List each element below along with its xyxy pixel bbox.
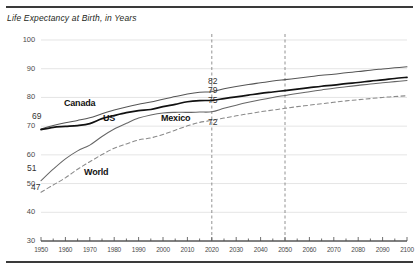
- x-tick-label-2090: 2090: [370, 246, 396, 253]
- x-tick-label-1990: 1990: [126, 246, 152, 253]
- x-tick-label-2070: 2070: [321, 246, 347, 253]
- canada-start-value: 69: [32, 111, 41, 121]
- x-tick-label-1950: 1950: [28, 246, 54, 253]
- world-start-value: 47: [31, 182, 40, 192]
- series-label-us: US: [103, 113, 115, 123]
- y-tick-label-70: 70: [13, 121, 35, 130]
- y-tick-label-60: 60: [13, 150, 35, 159]
- x-axis-group: [41, 237, 407, 241]
- series-label-mexico: Mexico: [161, 113, 190, 123]
- y-tick-label-30: 30: [13, 236, 35, 245]
- y-tick-label-40: 40: [13, 207, 35, 216]
- series-label-world: World: [84, 167, 108, 177]
- chart-figure: Life Expectancy at Birth, in Years 30405…: [0, 0, 419, 270]
- x-tick-label-2030: 2030: [223, 246, 249, 253]
- x-tick-label-1980: 1980: [101, 246, 127, 253]
- us-2020-value: 79: [208, 85, 217, 95]
- x-tick-label-2010: 2010: [174, 246, 200, 253]
- mexico-start-value: 51: [27, 163, 36, 173]
- x-tick-label-2080: 2080: [345, 246, 371, 253]
- x-tick-label-1970: 1970: [77, 246, 103, 253]
- reference-lines-group: [212, 34, 285, 241]
- y-tick-label-90: 90: [13, 64, 35, 73]
- x-tick-label-2050: 2050: [272, 246, 298, 253]
- x-tick-label-2020: 2020: [199, 246, 225, 253]
- series-label-canada: Canada: [64, 98, 95, 108]
- x-tick-label-2100: 2100: [394, 246, 419, 253]
- x-tick-label-2060: 2060: [296, 246, 322, 253]
- mexico-2020-value: 75: [208, 95, 217, 105]
- y-tick-label-100: 100: [13, 35, 35, 44]
- x-tick-label-1960: 1960: [52, 246, 78, 253]
- x-tick-label-2000: 2000: [150, 246, 176, 253]
- series-line-us: [41, 77, 407, 129]
- y-tick-label-80: 80: [13, 92, 35, 101]
- x-tick-label-2040: 2040: [248, 246, 274, 253]
- series-line-mexico: [41, 80, 407, 180]
- world-2020-value: 72: [208, 117, 217, 127]
- chart-plot-area: [0, 0, 419, 270]
- series-line-world: [41, 96, 407, 192]
